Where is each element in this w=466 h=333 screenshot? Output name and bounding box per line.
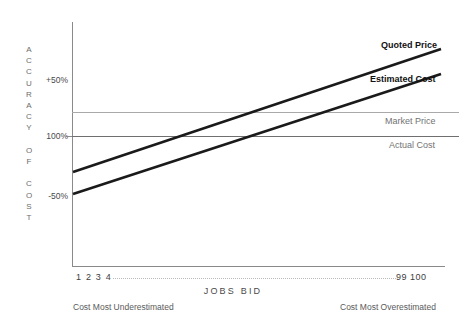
reference-line-actual-cost (72, 136, 459, 137)
reference-label-actual-cost: Actual Cost (389, 140, 435, 150)
x-axis-title: JOBS BID (0, 286, 466, 296)
series-label-estimated-cost: Estimated Cost (370, 74, 436, 84)
x-tick-label-start: 1 2 3 4 (76, 272, 112, 282)
series-label-quoted-price: Quoted Price (381, 40, 437, 50)
series-line-estimated-cost (73, 74, 441, 194)
x-axis-line (72, 266, 445, 267)
x-axis-dotted-range (113, 278, 396, 280)
x-tick-label-end: 99 100 (396, 272, 427, 282)
caption-overestimated: Cost Most Overestimated (340, 302, 436, 312)
series-line-quoted-price (73, 49, 441, 172)
caption-underestimated: Cost Most Underestimated (73, 302, 174, 312)
reference-label-market-price: Market Price (385, 116, 436, 126)
y-axis-line (72, 22, 73, 267)
y-tick-label-100: 100% (32, 131, 68, 141)
y-tick-label-minus50: -50% (32, 191, 68, 201)
y-tick-label-plus50: +50% (32, 75, 68, 85)
chart-canvas: A C C U R A C Y O F C O S T +50% 100% -5… (0, 0, 466, 333)
reference-line-market-price (72, 112, 459, 113)
